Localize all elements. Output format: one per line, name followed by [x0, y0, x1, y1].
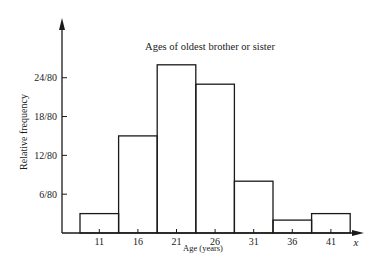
- x-tick-label: 31: [249, 236, 259, 247]
- x-axis-label: Age (years): [183, 243, 223, 253]
- x-tick-label: 21: [172, 236, 182, 247]
- x-tick-label: 41: [326, 236, 336, 247]
- y-tick-label: 24/80: [34, 72, 57, 83]
- x-axis-symbol: x: [353, 236, 359, 248]
- y-axis-arrow-icon: [59, 18, 65, 30]
- histogram-chart: 6/8012/8018/8024/80 11162126313641 Ages …: [0, 0, 382, 269]
- y-tick-label: 18/80: [34, 111, 57, 122]
- y-tick-label: 12/80: [34, 150, 57, 161]
- x-tick-label: 11: [94, 236, 104, 247]
- bar-21: [157, 65, 196, 233]
- bar-26: [196, 84, 235, 233]
- y-axis-label: Relative frequency: [18, 94, 29, 170]
- chart-title: Ages of oldest brother or sister: [145, 41, 275, 52]
- y-tick-label: 6/80: [39, 189, 57, 200]
- bars: [80, 65, 350, 233]
- x-tick-label: 36: [287, 236, 297, 247]
- bar-16: [119, 136, 158, 233]
- x-tick-label: 16: [133, 236, 143, 247]
- bar-31: [234, 181, 273, 233]
